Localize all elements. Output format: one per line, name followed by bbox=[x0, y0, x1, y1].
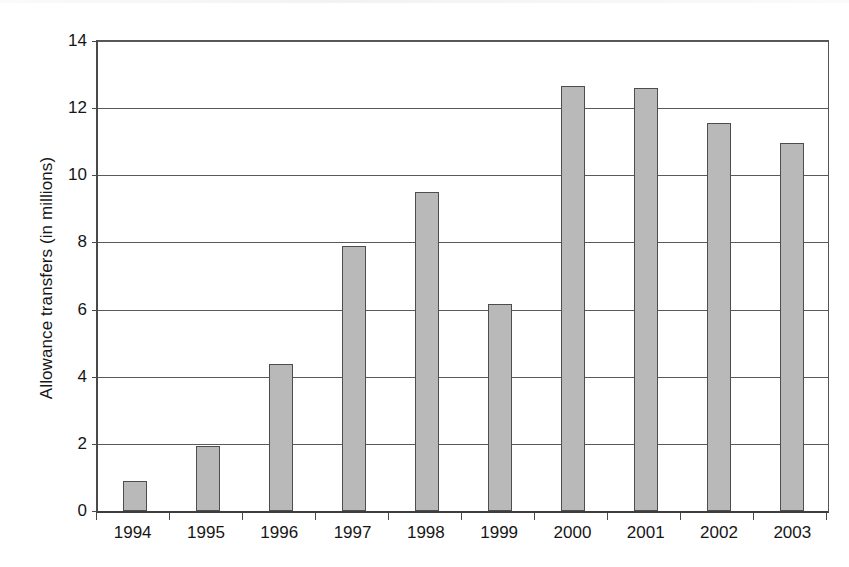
bar-2003 bbox=[780, 143, 804, 511]
y-axis-tick-label: 0 bbox=[78, 501, 98, 521]
bar-1995 bbox=[196, 446, 220, 511]
bar-slot bbox=[171, 41, 244, 511]
x-axis-tick-label-1998: 1998 bbox=[389, 523, 462, 543]
x-axis-tickmarks bbox=[96, 513, 829, 521]
y-axis-tick-label: 10 bbox=[68, 165, 98, 185]
x-axis-tick-label-2002: 2002 bbox=[682, 523, 755, 543]
bar-1997 bbox=[342, 246, 366, 511]
bar-chart-figure: Allowance transfers (in millions) 024681… bbox=[0, 0, 849, 567]
y-axis-tick-label: 2 bbox=[78, 434, 98, 454]
x-axis-tickmark bbox=[680, 513, 681, 520]
bar-1996 bbox=[269, 364, 293, 511]
y-axis-tick-label: 4 bbox=[78, 367, 98, 387]
bar-2001 bbox=[634, 88, 658, 511]
bar-slot bbox=[536, 41, 609, 511]
scan-edge-artifact bbox=[0, 0, 849, 3]
x-axis-labels: 1994199519961997199819992000200120022003 bbox=[96, 523, 829, 543]
bar-slot bbox=[755, 41, 828, 511]
y-axis-tick-label: 8 bbox=[78, 232, 98, 252]
x-axis-tickmark bbox=[242, 513, 243, 520]
bar-1994 bbox=[123, 481, 147, 511]
x-axis-tickmark bbox=[96, 513, 97, 520]
x-axis-tick-label-2001: 2001 bbox=[609, 523, 682, 543]
bar-slot bbox=[98, 41, 171, 511]
x-axis-tick-label-1999: 1999 bbox=[462, 523, 535, 543]
bar-1999 bbox=[488, 304, 512, 511]
bar-2000 bbox=[561, 86, 585, 511]
x-axis-tickmark bbox=[607, 513, 608, 520]
x-axis-tickmark bbox=[461, 513, 462, 520]
bar-slot bbox=[463, 41, 536, 511]
bar-slot bbox=[244, 41, 317, 511]
bar-slot bbox=[609, 41, 682, 511]
x-axis-tick-label-1994: 1994 bbox=[96, 523, 169, 543]
x-axis-tickmark bbox=[753, 513, 754, 520]
bar-2002 bbox=[707, 123, 731, 511]
x-axis-tick-label-1997: 1997 bbox=[316, 523, 389, 543]
y-axis-title: Allowance transfers (in millions) bbox=[37, 68, 57, 488]
x-axis-tickmark bbox=[388, 513, 389, 520]
plot-area: 02468101214 bbox=[96, 40, 829, 513]
x-axis-tick-label-2003: 2003 bbox=[756, 523, 829, 543]
x-axis-tickmark bbox=[169, 513, 170, 520]
y-axis-tick-label: 6 bbox=[78, 300, 98, 320]
y-axis-tick-label: 12 bbox=[68, 98, 98, 118]
x-axis-tick-label-2000: 2000 bbox=[536, 523, 609, 543]
bar-1998 bbox=[415, 192, 439, 511]
x-axis-tickmark bbox=[534, 513, 535, 520]
x-axis-tick-label-1995: 1995 bbox=[169, 523, 242, 543]
x-axis-tick-label-1996: 1996 bbox=[243, 523, 316, 543]
x-axis-tickmark bbox=[315, 513, 316, 520]
bar-slot bbox=[317, 41, 390, 511]
bar-slot bbox=[682, 41, 755, 511]
y-axis-tick-label: 14 bbox=[68, 31, 98, 51]
bars-group bbox=[98, 41, 828, 511]
bar-slot bbox=[390, 41, 463, 511]
x-axis-tickmark bbox=[826, 513, 827, 520]
